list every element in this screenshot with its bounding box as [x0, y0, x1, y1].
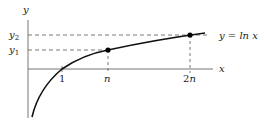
point-n	[105, 47, 110, 52]
y1-label: y1	[8, 44, 19, 57]
y2-label: y2	[8, 29, 19, 42]
x-tick-n-label: n	[104, 73, 110, 84]
ln-graph: y x y2 y1 1 n 2n y = ln x	[0, 0, 264, 125]
point-2n	[187, 32, 192, 37]
y-axis-label: y	[22, 4, 29, 15]
x-tick-2n-label: 2n	[183, 73, 196, 84]
x-tick-1-label: 1	[59, 73, 65, 84]
ln-curve	[32, 33, 205, 117]
x-axis-label: x	[219, 63, 225, 74]
curve-label: y = ln x	[218, 30, 258, 41]
